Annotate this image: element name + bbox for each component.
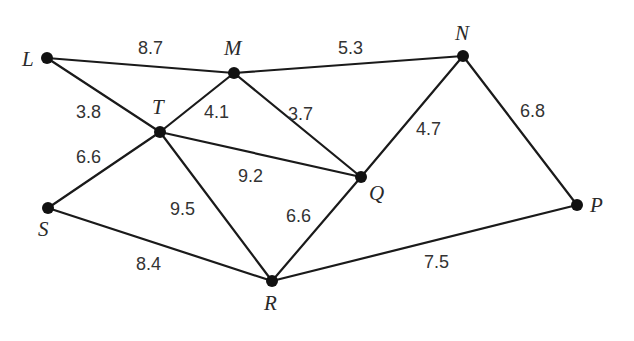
edge-weights: 8.75.33.84.13.74.76.86.69.29.56.68.47.5 xyxy=(76,38,545,274)
node-label-l: L xyxy=(21,47,34,71)
edge-l-m xyxy=(47,58,234,73)
edge-weight-t-r: 9.5 xyxy=(170,199,195,219)
edge-m-n xyxy=(234,56,463,73)
node-p xyxy=(571,199,583,211)
nodes xyxy=(41,50,583,287)
node-n xyxy=(457,50,469,62)
node-q xyxy=(355,171,367,183)
node-label-t: T xyxy=(152,95,165,119)
node-label-s: S xyxy=(38,217,49,241)
edge-m-q xyxy=(234,73,361,177)
edge-n-q xyxy=(361,56,463,177)
edge-weight-s-t: 6.6 xyxy=(76,147,101,167)
node-label-q: Q xyxy=(369,181,384,205)
edge-weight-n-q: 4.7 xyxy=(416,119,441,139)
edge-weight-s-r: 8.4 xyxy=(136,254,161,274)
edge-weight-l-t: 3.8 xyxy=(76,102,101,122)
edge-s-t xyxy=(48,132,160,208)
network-graph: 8.75.33.84.13.74.76.86.69.29.56.68.47.5 … xyxy=(0,0,634,341)
edge-weight-l-m: 8.7 xyxy=(138,38,163,58)
edge-weight-t-q: 9.2 xyxy=(238,166,263,186)
edge-weight-t-m: 4.1 xyxy=(204,102,229,122)
edge-weight-m-n: 5.3 xyxy=(338,38,363,58)
node-label-r: R xyxy=(263,291,277,315)
node-label-p: P xyxy=(589,193,603,217)
edge-weight-r-q: 6.6 xyxy=(286,206,311,226)
edge-weight-n-p: 6.8 xyxy=(520,101,545,121)
node-r xyxy=(266,275,278,287)
edge-n-p xyxy=(463,56,577,205)
node-label-n: N xyxy=(454,21,470,45)
node-m xyxy=(228,67,240,79)
node-t xyxy=(154,126,166,138)
edge-weight-m-q: 3.7 xyxy=(288,104,313,124)
node-l xyxy=(41,52,53,64)
edge-r-q xyxy=(272,177,361,281)
edges xyxy=(47,56,577,281)
edge-l-t xyxy=(47,58,160,132)
node-label-m: M xyxy=(223,36,243,60)
edge-weight-r-p: 7.5 xyxy=(424,252,449,272)
node-s xyxy=(42,202,54,214)
